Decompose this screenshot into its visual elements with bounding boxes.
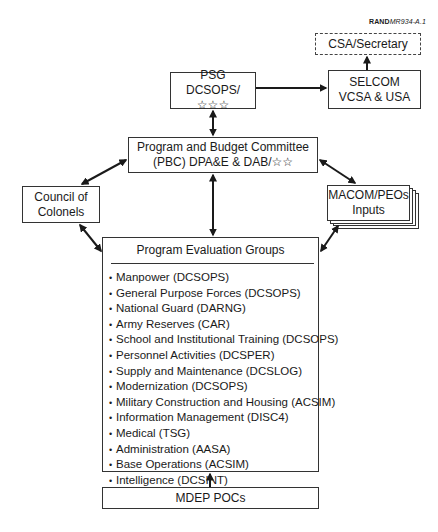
peg-item-label: Base Operations (ACSIM) — [116, 458, 249, 470]
peg-item-label: Personnel Activities (DCSPER) — [116, 349, 275, 361]
bullet-icon: • — [109, 333, 116, 348]
selcom-title: SELCOM — [349, 75, 400, 90]
peg-item: •Base Operations (ACSIM) — [109, 457, 338, 473]
selcom-box: SELCOM VCSA & USA — [328, 70, 421, 109]
peg-list: •Manpower (DCSOPS) •General Purpose Forc… — [109, 270, 338, 488]
bullet-icon: • — [109, 318, 116, 333]
peg-item: •Personnel Activities (DCSPER) — [109, 348, 338, 364]
mdep-pocs-box: MDEP POCs — [102, 487, 319, 509]
bullet-icon: • — [109, 411, 116, 426]
peg-item: •Information Management (DISC4) — [109, 410, 338, 426]
psg-title: PSG — [200, 68, 225, 83]
arrow-council-peg — [80, 225, 101, 251]
pbc-chairs: (PBC) DPA&E & DAB/☆☆ — [153, 155, 293, 170]
peg-item: •Intelligence (DCSINT) — [109, 473, 338, 489]
peg-item: •Administration (AASA) — [109, 442, 338, 458]
peg-item-label: Administration (AASA) — [116, 443, 230, 455]
peg-item: •Supply and Maintenance (DCSLOG) — [109, 364, 338, 380]
figure-label-id: MR934-A.1 — [390, 18, 426, 25]
arrow-macom-peg — [321, 226, 338, 251]
csa-secretary-box: CSA/Secretary — [315, 33, 421, 55]
peg-item-label: Intelligence (DCSINT) — [116, 474, 228, 486]
program-evaluation-groups-box: Program Evaluation Groups •Manpower (DCS… — [102, 237, 319, 472]
bullet-icon: • — [109, 443, 116, 458]
arrow-pbc-macom — [320, 160, 355, 183]
bullet-icon: • — [109, 287, 116, 302]
peg-item-label: Information Management (DISC4) — [116, 411, 289, 423]
macom-peos-box: MACOM/PEOs Inputs — [327, 185, 410, 221]
bullet-icon: • — [109, 396, 116, 411]
bullet-icon: • — [109, 302, 116, 317]
psg-box: PSG DCSOPS/☆☆☆ — [170, 72, 256, 109]
peg-item-label: Medical (TSG) — [116, 427, 190, 439]
bullet-icon: • — [109, 271, 116, 286]
pbc-title: Program and Budget Committee — [137, 140, 309, 155]
bullet-icon: • — [109, 380, 116, 395]
peg-item: •General Purpose Forces (DCSOPS) — [109, 286, 338, 302]
peg-item-label: Military Construction and Housing (ACSIM… — [116, 396, 335, 408]
macom-title: MACOM/PEOs — [328, 188, 409, 203]
peg-item: •Military Construction and Housing (ACSI… — [109, 395, 338, 411]
peg-item-label: Manpower (DCSOPS) — [116, 271, 229, 283]
macom-subtitle: Inputs — [352, 203, 385, 218]
council-line2: Colonels — [38, 205, 85, 220]
peg-item-label: Supply and Maintenance (DCSLOG) — [116, 365, 302, 377]
peg-divider — [111, 263, 314, 264]
peg-item: •Manpower (DCSOPS) — [109, 270, 338, 286]
peg-item-label: National Guard (DARNG) — [116, 302, 246, 314]
peg-item-label: Army Reserves (CAR) — [116, 318, 230, 330]
csa-secretary-label: CSA/Secretary — [328, 37, 407, 52]
peg-item-label: General Purpose Forces (DCSOPS) — [116, 287, 301, 299]
figure-label: RANDMR934-A.1 — [369, 18, 426, 25]
arrow-pbc-council — [82, 160, 126, 184]
peg-item: •Army Reserves (CAR) — [109, 317, 338, 333]
bullet-icon: • — [109, 458, 116, 473]
figure-label-prefix: RAND — [369, 18, 390, 25]
bullet-icon: • — [109, 427, 116, 442]
pbc-box: Program and Budget Committee (PBC) DPA&E… — [128, 137, 318, 173]
psg-chair: DCSOPS/☆☆☆ — [171, 83, 255, 113]
peg-item-label: Modernization (DCSOPS) — [116, 380, 248, 392]
selcom-members: VCSA & USA — [339, 90, 410, 105]
mdep-pocs-label: MDEP POCs — [176, 491, 246, 506]
bullet-icon: • — [109, 349, 116, 364]
council-line1: Council of — [34, 190, 87, 205]
council-of-colonels-box: Council of Colonels — [22, 186, 100, 223]
peg-title: Program Evaluation Groups — [103, 238, 318, 260]
bullet-icon: • — [109, 365, 116, 380]
peg-item: •Modernization (DCSOPS) — [109, 379, 338, 395]
peg-item: •Medical (TSG) — [109, 426, 338, 442]
peg-item: •National Guard (DARNG) — [109, 301, 338, 317]
peg-item: •School and Institutional Training (DCSO… — [109, 332, 338, 348]
peg-item-label: School and Institutional Training (DCSOP… — [116, 333, 338, 345]
